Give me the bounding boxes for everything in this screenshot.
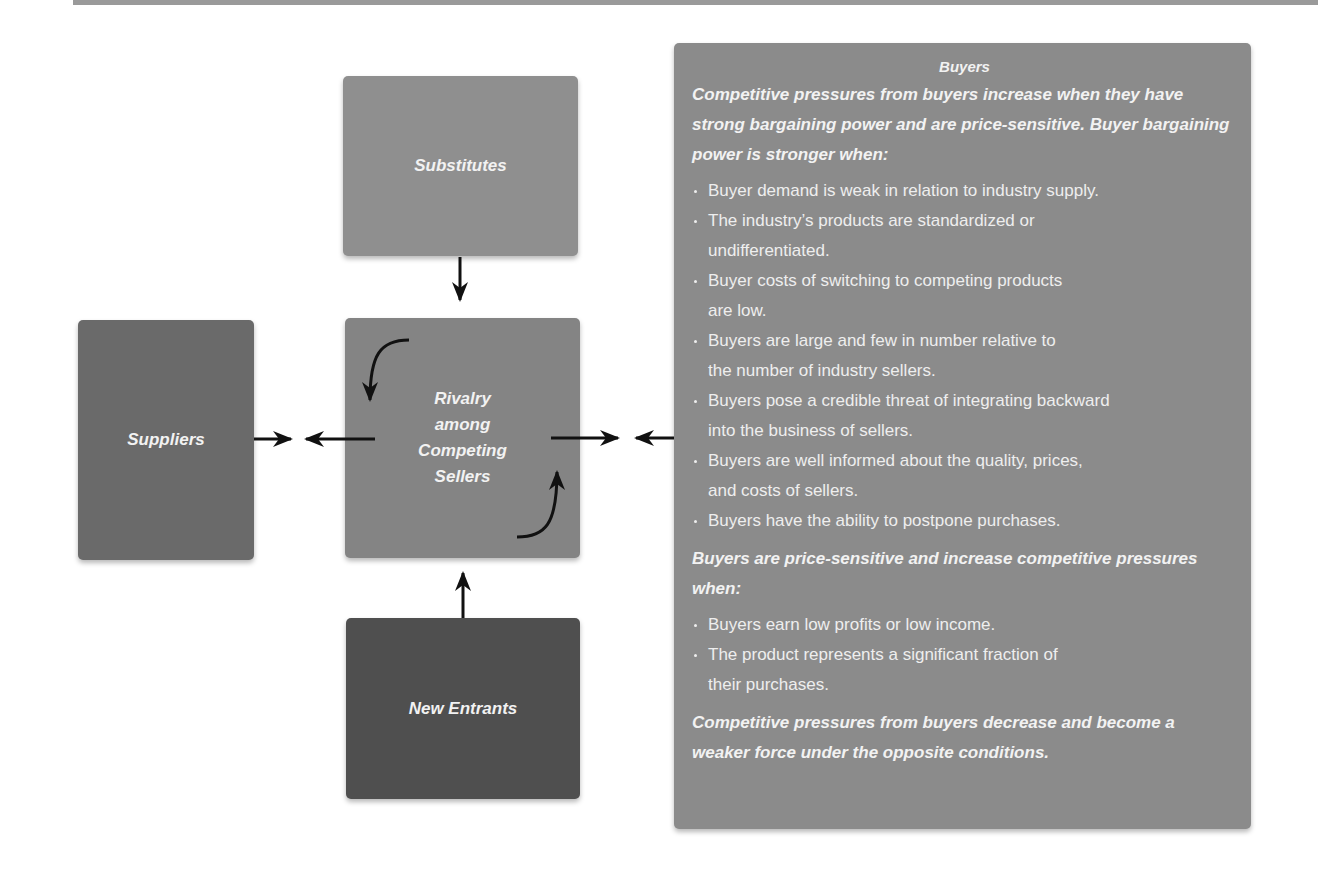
substitutes-label: Substitutes: [414, 153, 507, 179]
buyers-panel: Buyers Competitive pressures from buyers…: [674, 43, 1251, 829]
list-item: Buyers are large and few in number relat…: [692, 326, 1237, 386]
suppliers-label: Suppliers: [127, 427, 204, 453]
buyers-title: Buyers: [692, 56, 1237, 78]
buyers-closing-text: Competitive pressures from buyers decrea…: [692, 708, 1237, 768]
list-item: Buyer costs of switching to competing pr…: [692, 266, 1237, 326]
list-item: The product represents a significant fra…: [692, 640, 1237, 700]
buyers-lead-text: Competitive pressures from buyers increa…: [692, 80, 1237, 170]
substitutes-box: Substitutes: [343, 76, 578, 256]
rivalry-box: Rivalry among Competing Sellers: [345, 318, 580, 558]
rivalry-label: Rivalry among Competing Sellers: [403, 386, 523, 490]
list-item: Buyers pose a credible threat of integra…: [692, 386, 1237, 446]
bargaining-conditions-list: Buyer demand is weak in relation to indu…: [692, 176, 1237, 536]
list-item: The industry’s products are standardized…: [692, 206, 1237, 266]
price-sensitive-lead-text: Buyers are price-sensitive and increase …: [692, 544, 1237, 604]
list-item: Buyers are well informed about the quali…: [692, 446, 1237, 506]
list-item: Buyers earn low profits or low income.: [692, 610, 1237, 640]
new-entrants-box: New Entrants: [346, 618, 580, 799]
price-sensitive-conditions-list: Buyers earn low profits or low income. T…: [692, 610, 1237, 700]
new-entrants-label: New Entrants: [409, 696, 518, 722]
list-item: Buyer demand is weak in relation to indu…: [692, 176, 1237, 206]
suppliers-box: Suppliers: [78, 320, 254, 560]
list-item: Buyers have the ability to postpone purc…: [692, 506, 1237, 536]
top-divider-bar: [73, 0, 1318, 5]
